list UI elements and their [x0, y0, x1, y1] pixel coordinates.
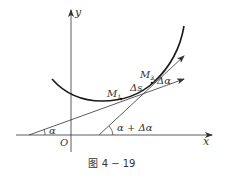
angle-delta-label: Δα	[156, 75, 171, 86]
figure-caption: 图 4 − 19	[88, 158, 135, 169]
angle-arc-alpha	[44, 129, 45, 135]
x-axis-label: x	[203, 135, 210, 148]
angle-alpha-label: α	[49, 125, 56, 136]
curvature-diagram: y x O α α + Δα M1 M2 Δs Δα 图 4 − 19	[0, 0, 225, 182]
m2-label: M2	[139, 69, 154, 81]
angle-alpha-plus-label: α + Δα	[117, 122, 153, 133]
point-m2	[151, 82, 154, 85]
y-axis-label: y	[74, 6, 82, 19]
angle-arc-alpha-plus	[109, 126, 113, 135]
curve	[52, 26, 184, 101]
m1-label: M1	[106, 88, 121, 100]
origin-label: O	[60, 137, 68, 148]
arc-length-label: Δs	[129, 82, 142, 93]
